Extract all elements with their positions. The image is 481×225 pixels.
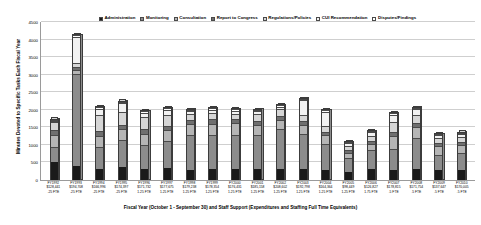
bar-segment[interactable] xyxy=(277,129,284,169)
bar-segment[interactable] xyxy=(458,153,465,170)
bar-segment[interactable] xyxy=(96,147,103,168)
bar-segment[interactable] xyxy=(300,100,307,115)
bar-segment[interactable] xyxy=(254,114,261,121)
chart-legend: AdministrationMonitoringConsultationRepo… xyxy=(40,14,475,23)
bar-segment[interactable] xyxy=(51,147,58,162)
bar-segment[interactable] xyxy=(73,74,80,166)
legend-item[interactable]: Report to Congress xyxy=(211,16,258,20)
bar-segment[interactable] xyxy=(413,169,420,180)
bar-segment[interactable] xyxy=(435,146,442,155)
bar-segment[interactable] xyxy=(209,113,216,120)
bar-segment[interactable] xyxy=(164,141,171,167)
bar-column[interactable] xyxy=(118,101,127,180)
bar-segment[interactable] xyxy=(96,115,103,132)
x-tick-fte: .5 FTE xyxy=(382,190,405,194)
bar-segment[interactable] xyxy=(390,136,397,149)
bar-segment[interactable] xyxy=(232,169,239,180)
bar-segment[interactable] xyxy=(119,140,126,167)
bar-segment[interactable] xyxy=(164,115,171,125)
bar-segment[interactable] xyxy=(141,117,148,129)
bar-column[interactable] xyxy=(163,107,172,180)
bar-segment[interactable] xyxy=(209,135,216,169)
bar-column[interactable] xyxy=(344,141,353,180)
bar-segment[interactable] xyxy=(368,150,375,169)
legend-item[interactable]: Monitoring xyxy=(140,16,168,20)
bar-segment[interactable] xyxy=(413,138,420,168)
bar-column[interactable] xyxy=(95,106,104,180)
bar-segment[interactable] xyxy=(458,145,465,153)
bar-segment[interactable] xyxy=(51,162,58,180)
bar-segment[interactable] xyxy=(119,103,126,112)
legend-swatch-icon xyxy=(140,17,144,21)
bar-segment[interactable] xyxy=(187,124,194,135)
bar-column[interactable] xyxy=(412,107,421,180)
bar-segment[interactable] xyxy=(254,125,261,135)
bar-column[interactable] xyxy=(321,109,330,180)
legend-item[interactable]: Disputes/Findings xyxy=(372,16,416,20)
bar-segment[interactable] xyxy=(277,120,284,129)
bar-segment[interactable] xyxy=(390,170,397,180)
bar-segment[interactable] xyxy=(96,136,103,147)
bar-column[interactable] xyxy=(367,130,376,180)
bar-column[interactable] xyxy=(299,98,308,180)
bar-column[interactable] xyxy=(50,119,59,180)
bar-segment[interactable] xyxy=(141,169,148,180)
bar-segment[interactable] xyxy=(164,168,171,180)
bar-segment[interactable] xyxy=(413,127,420,138)
bar-segment[interactable] xyxy=(187,170,194,180)
bar-segment[interactable] xyxy=(277,109,284,116)
bar-segment[interactable] xyxy=(164,130,171,141)
bar-column[interactable] xyxy=(276,104,285,180)
legend-item[interactable]: Administration xyxy=(99,16,136,20)
bar-segment[interactable] xyxy=(209,169,216,180)
bar-segment[interactable] xyxy=(141,134,148,145)
bar-segment[interactable] xyxy=(390,115,397,122)
bar-segment[interactable] xyxy=(232,135,239,169)
bar-segment[interactable] xyxy=(119,112,126,124)
bar-column[interactable] xyxy=(208,107,217,180)
bar-segment[interactable] xyxy=(51,135,58,147)
bar-segment[interactable] xyxy=(300,169,307,180)
x-axis-tick-labels: FY1992$128,441.25 FTEFY1993$194,708.25 F… xyxy=(40,181,475,203)
bar-segment[interactable] xyxy=(277,169,284,180)
legend-item[interactable]: Consultation xyxy=(174,16,206,20)
bar-column[interactable] xyxy=(231,108,240,180)
bar-segment[interactable] xyxy=(322,170,329,180)
bar-column[interactable] xyxy=(72,34,81,180)
bar-segment[interactable] xyxy=(300,134,307,169)
bar-segment[interactable] xyxy=(73,166,80,180)
bar-segment[interactable] xyxy=(435,155,442,170)
bar-segment[interactable] xyxy=(390,149,397,169)
bar-segment[interactable] xyxy=(390,122,397,132)
bar-segment[interactable] xyxy=(435,170,442,180)
bar-column[interactable] xyxy=(186,109,195,180)
bar-segment[interactable] xyxy=(368,169,375,180)
bar-segment[interactable] xyxy=(322,144,329,170)
bar-column[interactable] xyxy=(253,109,262,180)
bar-segment[interactable] xyxy=(458,170,465,180)
bar-segment[interactable] xyxy=(119,129,126,140)
bar-segment[interactable] xyxy=(232,123,239,134)
bar-segment[interactable] xyxy=(254,169,261,180)
bar-segment[interactable] xyxy=(51,122,58,130)
bar-column[interactable] xyxy=(457,132,466,180)
bar-segment[interactable] xyxy=(254,135,261,169)
bar-segment[interactable] xyxy=(413,115,420,124)
bar-segment[interactable] xyxy=(73,37,80,62)
bar-segment[interactable] xyxy=(322,112,329,127)
bar-segment[interactable] xyxy=(209,124,216,135)
bar-segment[interactable] xyxy=(322,135,329,143)
bar-segment[interactable] xyxy=(96,169,103,180)
bar-segment[interactable] xyxy=(119,167,126,180)
bar-segment[interactable] xyxy=(345,158,352,172)
bar-segment[interactable] xyxy=(345,172,352,180)
bar-segment[interactable] xyxy=(141,145,148,169)
legend-item[interactable]: Regulations/Policies xyxy=(263,16,312,20)
bar-column[interactable] xyxy=(434,133,443,180)
legend-item[interactable]: CUI Recommendation xyxy=(316,16,367,20)
legend-item-label: Report to Congress xyxy=(217,16,258,20)
bar-segment[interactable] xyxy=(300,125,307,134)
bar-column[interactable] xyxy=(140,110,149,180)
bar-segment[interactable] xyxy=(187,135,194,170)
bar-column[interactable] xyxy=(389,112,398,180)
